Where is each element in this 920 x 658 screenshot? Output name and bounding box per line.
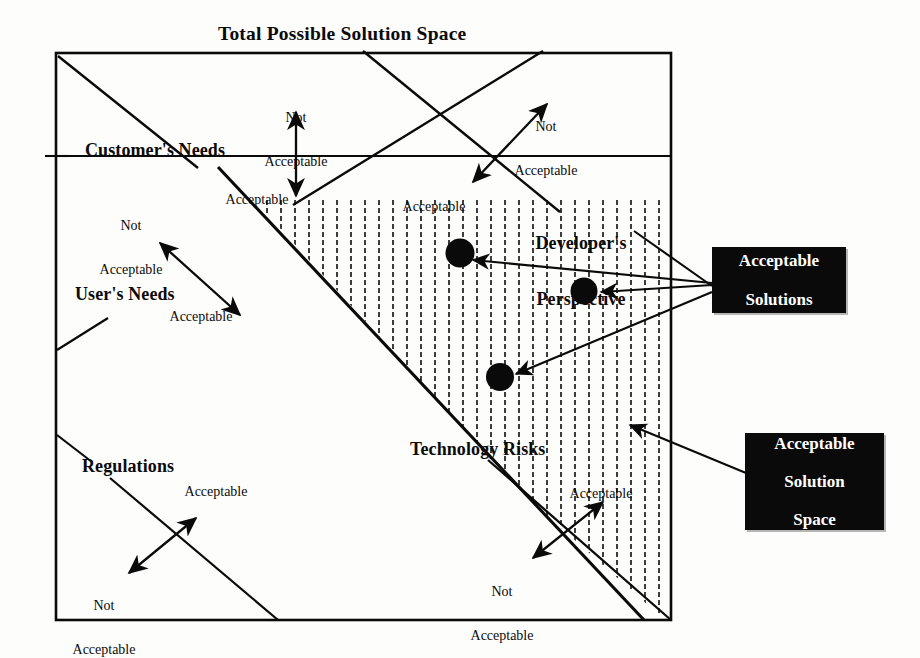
- annotation-line-1: Not: [487, 120, 605, 135]
- callout-line-1: Acceptable: [768, 434, 860, 453]
- users-needs-edge-stub: [57, 318, 108, 350]
- region-label-developers-perspective: Developer's Perspective: [501, 196, 661, 347]
- annotation-center-acceptable: Acceptable: [378, 200, 490, 215]
- developers-perspective-line-2: Perspective: [501, 290, 661, 309]
- annotation-regulations-acceptable: Acceptable: [160, 485, 272, 500]
- annotation-line-2: Acceptable: [45, 643, 163, 658]
- developers-perspective-line-1: Developer's: [501, 234, 661, 253]
- page-title: Total Possible Solution Space: [218, 24, 466, 44]
- annotation-line-1: Not: [72, 219, 190, 234]
- annotation-technology-acceptable: Acceptable: [545, 487, 657, 502]
- regulations-double-arrow: [129, 518, 196, 573]
- region-label-technology-risks: Technology Risks: [410, 440, 545, 459]
- region-label-customers-needs: Customer's Needs: [85, 141, 225, 160]
- callout-acceptable-solution-space: Acceptable Solution Space: [745, 433, 884, 530]
- callout-line-3: Space: [768, 510, 860, 529]
- annotation-regulations-not-acceptable: Not Acceptable: [45, 570, 163, 658]
- annotation-line-1: Not: [237, 111, 355, 126]
- annotation-line-2: Acceptable: [237, 155, 355, 170]
- callout-line-2: Solution: [768, 472, 860, 491]
- callout-acceptable-solutions: Acceptable Solutions: [712, 247, 846, 313]
- callout-line-1: Acceptable: [733, 251, 825, 270]
- annotation-line-2: Acceptable: [72, 263, 190, 278]
- region-label-regulations: Regulations: [82, 457, 174, 476]
- annotation-line-1: Not: [443, 585, 561, 600]
- annotation-users-acceptable: Acceptable: [145, 310, 257, 325]
- annotation-line-2: Acceptable: [443, 629, 561, 644]
- annotation-line-2: Acceptable: [487, 164, 605, 179]
- callout-line-2: Solutions: [733, 290, 825, 309]
- solution-dot-1: [446, 239, 475, 268]
- annotation-customers-acceptable: Acceptable: [201, 193, 313, 208]
- annotation-top-not-acceptable: Not Acceptable: [237, 82, 355, 200]
- diagram-canvas: Total Possible Solution Space Customer's…: [0, 0, 920, 658]
- annotation-line-1: Not: [45, 599, 163, 614]
- solution-dot-3: [486, 363, 514, 391]
- annotation-users-not-acceptable: Not Acceptable: [72, 190, 190, 308]
- annotation-top-right-not-acceptable: Not Acceptable: [487, 91, 605, 209]
- annotation-technology-not-acceptable: Not Acceptable: [443, 556, 561, 658]
